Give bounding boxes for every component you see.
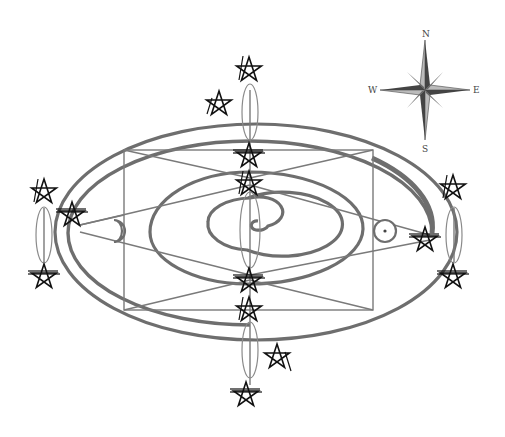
sun-icon <box>374 220 396 242</box>
pentagram-icon <box>237 171 262 195</box>
compass-west-label: W <box>368 85 378 95</box>
diagonal-line <box>80 232 250 275</box>
pentagram-icon <box>32 179 57 203</box>
compass-rose-icon: N S E W <box>368 29 480 154</box>
pentagram-icon <box>237 56 262 81</box>
spiral-icon <box>208 192 343 256</box>
compass-east-label: E <box>473 85 480 95</box>
pentagram-icon <box>237 297 262 321</box>
compass-north-label: N <box>422 29 430 39</box>
pentagram-icon <box>265 344 291 371</box>
pentagram-icon <box>230 382 262 406</box>
pentagram-icon <box>207 91 232 115</box>
compass-south-label: S <box>422 144 428 154</box>
orbit-diagram: N S E W <box>0 0 505 437</box>
third-orbit <box>150 172 363 284</box>
pentagram-icon <box>28 264 60 288</box>
diagonal-line <box>124 150 250 178</box>
diagonal-line <box>250 150 373 178</box>
pentagram-icon <box>233 143 265 167</box>
diagonal-line <box>124 280 250 310</box>
diagonal-line <box>250 280 373 310</box>
